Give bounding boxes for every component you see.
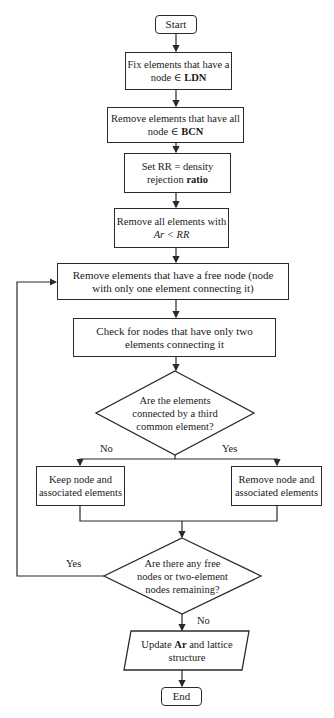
decision2-no-label: No (197, 615, 210, 626)
step2-line1: Remove elements that have all (111, 112, 240, 125)
step2-bcn: BCN (181, 126, 203, 137)
step-remove-free-node: Remove elements that have a free node (n… (57, 263, 289, 300)
decision2-line1: Are there any free (137, 557, 228, 570)
keep-line1: Keep node and (39, 473, 122, 486)
keep-line2: associated elements (39, 486, 122, 499)
decision1-line3: common element? (132, 420, 217, 433)
update-line1-post: and lattice (187, 639, 233, 650)
update-line1-pre: Update (141, 639, 174, 650)
decision1-no-label: No (100, 443, 113, 454)
step2-line2: node ∈ (148, 126, 181, 137)
step4-condition: Ar < RR (154, 229, 190, 240)
decision1-line1: Are the elements (132, 394, 217, 407)
step-check-two-element-nodes: Check for nodes that have only two eleme… (73, 318, 276, 357)
start-label: Start (166, 18, 187, 31)
step-remove-node: Remove node and associated elements (231, 466, 322, 506)
end-label: End (173, 690, 191, 703)
decision1-line2: connected by a third (132, 407, 217, 420)
step1-line1: Fix elements that have a (127, 58, 229, 71)
decision2-text: Are there any free nodes or two-element … (125, 550, 240, 602)
step5-line2: with only one element connecting it) (73, 282, 274, 295)
step3-ratio: ratio (186, 174, 208, 185)
update-line2: structure (141, 651, 232, 664)
step3-line2: rejection (147, 174, 186, 185)
step4-line1: Remove all elements with (117, 215, 226, 228)
step3-line1: Set RR = density (142, 160, 214, 173)
start-terminal: Start (155, 15, 197, 34)
update-text: Update Ar and lattice structure (128, 631, 246, 670)
step-fix-ldn: Fix elements that have a node ∈ LDN (125, 52, 232, 90)
end-terminal: End (161, 687, 202, 706)
step1-line2: node ∈ (151, 72, 184, 83)
step6-line2: elements connecting it (96, 338, 252, 351)
remove-line2: associated elements (235, 486, 318, 499)
remove-line1: Remove node and (235, 473, 318, 486)
decision2-yes-label: Yes (66, 558, 81, 569)
step-remove-ar-lt-rr: Remove all elements with Ar < RR (114, 208, 229, 248)
step-remove-bcn: Remove elements that have all node ∈ BCN (107, 107, 244, 143)
decision2-line3: nodes remaining? (137, 583, 228, 596)
step6-line1: Check for nodes that have only two (96, 325, 252, 338)
decision1-text: Are the elements connected by a third co… (115, 386, 235, 440)
step5-line1: Remove elements that have a free node (n… (73, 269, 274, 282)
step1-ldn: LDN (184, 72, 206, 83)
step-set-rr: Set RR = density rejection ratio (124, 153, 231, 193)
update-ar: Ar (174, 639, 186, 650)
decision1-yes-label: Yes (222, 443, 237, 454)
step-keep-node: Keep node and associated elements (36, 466, 125, 506)
decision2-line2: nodes or two-element (137, 570, 228, 583)
